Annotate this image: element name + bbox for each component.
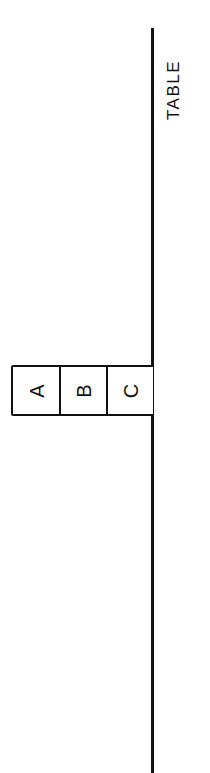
block-c-label: C — [119, 383, 142, 397]
block-b: B — [59, 365, 108, 416]
table-label: TABLE — [164, 60, 184, 120]
block-c: C — [106, 365, 153, 416]
block-b-label: B — [72, 384, 95, 397]
block-a: A — [11, 365, 62, 416]
block-a-label: A — [25, 384, 48, 397]
